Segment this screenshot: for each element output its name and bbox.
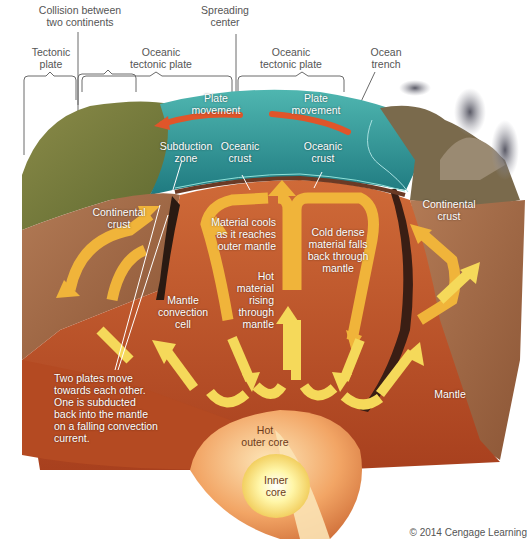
tectonic-plate-label: Tectonic plate	[6, 46, 96, 70]
oceanic-plate-left-label: Oceanic tectonic plate	[106, 46, 216, 70]
mantle-convection-cell-label: Mantle convection cell	[148, 294, 218, 330]
oceanic-plate-right-label: Oceanic tectonic plate	[236, 46, 346, 70]
volcano-smoke-icon	[454, 88, 486, 136]
ocean-trench-label: Ocean trench	[356, 46, 416, 70]
hot-outer-core-label: Hot outer core	[230, 424, 300, 448]
spreading-center-label: Spreading center	[180, 4, 270, 28]
oceanic-crust-left-label: Oceanic crust	[210, 140, 270, 164]
material-cools-label: Material cools as it reaches outer mantl…	[196, 216, 276, 252]
plate-movement-left-label: Plate movement	[176, 92, 256, 116]
collision-label: Collision between two continents	[20, 4, 140, 28]
two-plates-label: Two plates move towards each other. One …	[54, 372, 184, 444]
mantle-label: Mantle	[420, 388, 480, 400]
continental-crust-left-label: Continental crust	[84, 206, 154, 230]
cold-dense-label: Cold dense material falls back through m…	[300, 226, 376, 274]
oceanic-crust-right-label: Oceanic crust	[293, 140, 353, 164]
inner-core-label: Inner core	[246, 474, 306, 498]
continental-crust-right-label: Continental crust	[414, 198, 484, 222]
plate-movement-right-label: Plate movement	[276, 92, 356, 116]
copyright-text: © 2014 Cengage Learning	[410, 527, 527, 538]
tectonic-diagram: Collision between two continents Spreadi…	[0, 0, 527, 539]
